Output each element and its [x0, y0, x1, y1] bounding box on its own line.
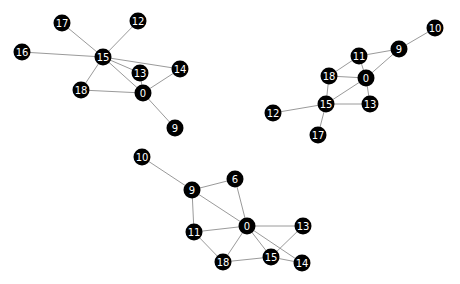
node-9: 9	[391, 41, 408, 58]
edge-16-15	[22, 52, 103, 57]
node-17: 17	[54, 15, 71, 32]
graph-top-right-nodes: 1091118015131217	[265, 20, 444, 144]
node-label: 0	[363, 73, 369, 84]
node-13: 13	[132, 65, 149, 82]
node-18: 18	[321, 68, 338, 85]
node-label: 9	[189, 185, 195, 196]
node-label: 15	[97, 52, 110, 63]
node-label: 10	[136, 152, 149, 163]
node-15: 15	[318, 96, 335, 113]
edges-layer	[22, 21, 435, 263]
node-label: 18	[75, 85, 88, 96]
node-label: 11	[188, 227, 201, 238]
node-label: 9	[396, 44, 402, 55]
node-label: 12	[267, 108, 280, 119]
node-label: 17	[312, 130, 325, 141]
node-10: 10	[427, 20, 444, 37]
node-12: 12	[130, 13, 147, 30]
node-14: 14	[294, 255, 311, 272]
node-label: 14	[296, 258, 309, 269]
node-label: 18	[323, 71, 336, 82]
node-9: 9	[184, 182, 201, 199]
node-label: 0	[244, 221, 250, 232]
node-label: 13	[297, 221, 310, 232]
graph-top-left-edges	[22, 21, 180, 128]
edge-18-0	[81, 90, 143, 93]
node-label: 17	[56, 18, 69, 29]
node-label: 18	[217, 257, 230, 268]
graph-bottom-edges	[142, 157, 303, 263]
graph-top-left-nodes: 1712161514131809	[14, 13, 189, 137]
node-14: 14	[172, 61, 189, 78]
node-label: 0	[140, 88, 146, 99]
node-label: 15	[320, 99, 333, 110]
node-label: 13	[364, 99, 377, 110]
node-label: 11	[353, 51, 366, 62]
node-18: 18	[215, 254, 232, 271]
node-12: 12	[265, 105, 282, 122]
node-15: 15	[95, 49, 112, 66]
node-0: 0	[135, 85, 152, 102]
nodes-layer: 1712161514131809109111801513121710961101…	[14, 13, 444, 272]
node-13: 13	[295, 218, 312, 235]
node-9: 9	[167, 120, 184, 137]
node-13: 13	[362, 96, 379, 113]
graph-canvas: 1712161514131809109111801513121710961101…	[0, 0, 460, 284]
node-18: 18	[73, 82, 90, 99]
node-6: 6	[227, 171, 244, 188]
node-label: 15	[265, 252, 278, 263]
edge-10-9	[142, 157, 192, 190]
node-label: 14	[174, 64, 187, 75]
node-0: 0	[239, 218, 256, 235]
node-10: 10	[134, 149, 151, 166]
node-15: 15	[263, 249, 280, 266]
node-11: 11	[351, 48, 368, 65]
node-label: 10	[429, 23, 442, 34]
node-label: 12	[132, 16, 145, 27]
node-0: 0	[358, 70, 375, 87]
network-diagram: 1712161514131809109111801513121710961101…	[0, 0, 460, 284]
node-label: 13	[134, 68, 147, 79]
node-16: 16	[14, 44, 31, 61]
node-11: 11	[186, 224, 203, 241]
node-label: 9	[172, 123, 178, 134]
node-17: 17	[310, 127, 327, 144]
graph-top-right-edges	[273, 28, 435, 135]
node-label: 6	[232, 174, 238, 185]
node-label: 16	[16, 47, 29, 58]
